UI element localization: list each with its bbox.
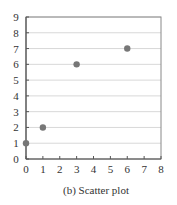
y-tick-label: 0 [13, 153, 19, 165]
y-tick-label: 6 [13, 58, 19, 70]
x-tick-label: 6 [125, 163, 131, 175]
x-tick-label: 5 [108, 163, 114, 175]
x-tick-label: 0 [23, 163, 29, 175]
y-tick-label: 8 [13, 27, 19, 39]
x-tick-label: 2 [57, 163, 63, 175]
axes [26, 17, 161, 159]
data-point [73, 61, 79, 67]
data-point [23, 140, 29, 146]
x-tick-label: 7 [141, 163, 147, 175]
grid-lines [26, 17, 161, 143]
x-tick-label: 1 [40, 163, 46, 175]
y-tick-label: 1 [13, 137, 19, 149]
y-tick-label: 2 [13, 121, 19, 133]
chart-caption: (b) Scatter plot [63, 184, 129, 197]
x-tick-label: 8 [158, 163, 164, 175]
data-point [124, 45, 130, 51]
plot-frame [26, 17, 161, 159]
x-tick-label: 4 [91, 163, 97, 175]
data-point [40, 124, 46, 130]
x-tick-label: 3 [74, 163, 80, 175]
y-tick-label: 5 [13, 74, 19, 86]
y-tick-label: 7 [13, 43, 19, 55]
scatter-chart: 012345678 0123456789 (b) Scatter plot [0, 0, 177, 205]
y-tick-label: 9 [13, 11, 19, 23]
y-tick-label: 3 [13, 106, 19, 118]
y-tick-label: 4 [13, 90, 19, 102]
